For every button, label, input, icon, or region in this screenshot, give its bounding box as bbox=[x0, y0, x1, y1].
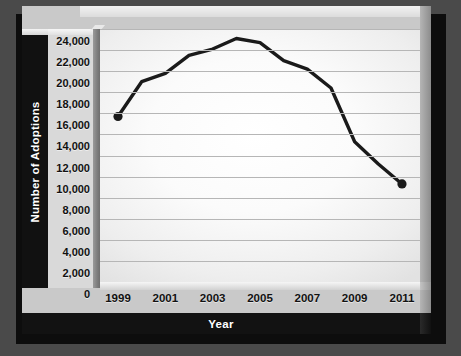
x-axis-title: Year bbox=[208, 318, 234, 330]
gridline bbox=[100, 92, 420, 93]
data-point-marker bbox=[397, 179, 406, 188]
plot-floor-slab bbox=[100, 282, 420, 290]
y-axis-tick-label: 6,000 bbox=[62, 225, 90, 237]
gridline bbox=[100, 113, 420, 114]
plot-area bbox=[100, 29, 420, 282]
chart-panel-top-bevel bbox=[80, 6, 431, 17]
y-axis-tick-label: 24,000 bbox=[56, 35, 90, 47]
gridline bbox=[100, 29, 420, 30]
y-axis-tick-label: 22,000 bbox=[56, 56, 90, 68]
gridline bbox=[100, 177, 420, 178]
gridline bbox=[100, 50, 420, 51]
y-axis-wall bbox=[93, 29, 100, 288]
x-axis-title-band: Year bbox=[22, 313, 420, 334]
gridline bbox=[100, 156, 420, 157]
gridline bbox=[100, 198, 420, 199]
y-axis-tick-label: 4,000 bbox=[62, 246, 90, 258]
x-axis-tick-label: 2005 bbox=[247, 292, 273, 304]
x-axis-tick-labels: 1999200120032005200720092011 bbox=[100, 290, 420, 312]
gridline bbox=[100, 240, 420, 241]
y-axis-tick-label: 2,000 bbox=[62, 267, 90, 279]
y-axis-tick-label: 0 bbox=[84, 288, 90, 300]
y-axis-title: Number of Adoptions bbox=[29, 101, 41, 222]
plot-floor-slab-right bbox=[420, 282, 431, 290]
y-axis-tick-label: 18,000 bbox=[56, 98, 90, 110]
x-axis-tick-label: 2011 bbox=[390, 292, 415, 304]
y-axis-tick-label: 8,000 bbox=[62, 204, 90, 216]
y-axis-title-band: Number of Adoptions bbox=[22, 35, 48, 288]
y-axis-tick-label: 14,000 bbox=[56, 140, 90, 152]
x-axis-tick-label: 2007 bbox=[295, 292, 321, 304]
gridline bbox=[100, 219, 420, 220]
gridline bbox=[100, 261, 420, 262]
x-axis-tick-label: 2003 bbox=[200, 292, 226, 304]
y-axis-tick-label: 20,000 bbox=[56, 77, 90, 89]
x-axis-title-right-bevel bbox=[420, 313, 431, 334]
y-axis-tick-labels: 02,0004,0006,0008,00010,00012,00014,0001… bbox=[48, 35, 93, 288]
y-axis-tick-label: 16,000 bbox=[56, 119, 90, 131]
x-axis-tick-label: 1999 bbox=[105, 292, 131, 304]
y-axis-tick-label: 12,000 bbox=[56, 162, 90, 174]
gridline bbox=[100, 134, 420, 135]
x-axis-tick-label: 2001 bbox=[153, 292, 179, 304]
x-axis-tick-label: 2009 bbox=[342, 292, 368, 304]
chart-container: Number of Adoptions 02,0004,0006,0008,00… bbox=[0, 0, 461, 356]
data-line bbox=[118, 38, 402, 183]
gridline bbox=[100, 71, 420, 72]
chart-panel-right-bevel bbox=[420, 6, 431, 322]
y-axis-tick-label: 10,000 bbox=[56, 183, 90, 195]
